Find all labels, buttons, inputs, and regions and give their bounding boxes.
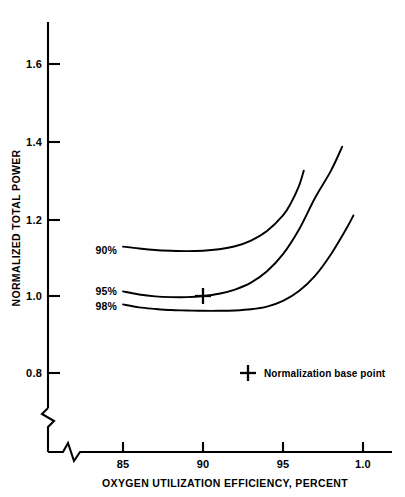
y-tick-marks [48, 64, 60, 373]
legend: Normalization base point [240, 365, 386, 381]
curve-label-90-percent: 90% [95, 244, 117, 256]
x-tick-labels: 85 90 95 1.0 [117, 458, 371, 470]
x-tick-label-85: 85 [117, 458, 130, 470]
curve-label-95-percent: 95% [95, 285, 117, 297]
x-axis-line [48, 443, 392, 461]
x-tick-marks [123, 442, 363, 452]
y-tick-labels: 1.6 1.4 1.2 1.0 0.8 [26, 58, 43, 379]
y-axis-title: NORMALIZED TOTAL POWER [10, 149, 22, 306]
curve-95-percent [123, 147, 342, 298]
legend-label-base-point: Normalization base point [264, 368, 386, 379]
y-tick-label-1.6: 1.6 [26, 58, 42, 70]
y-tick-label-1.2: 1.2 [26, 214, 42, 226]
chart-figure: 1.6 1.4 1.2 1.0 0.8 85 90 95 1.0 OXYGEN … [0, 0, 405, 497]
x-tick-label-100: 1.0 [355, 458, 371, 470]
x-tick-label-90: 90 [197, 458, 210, 470]
chart-canvas: 1.6 1.4 1.2 1.0 0.8 85 90 95 1.0 OXYGEN … [0, 0, 405, 497]
normalization-base-point-marker [195, 288, 211, 304]
x-tick-label-95: 95 [277, 458, 290, 470]
curve-90-percent [123, 171, 304, 252]
data-curves [123, 147, 353, 311]
curve-label-98-percent: 98% [95, 300, 117, 312]
y-tick-label-1.4: 1.4 [26, 136, 43, 148]
x-axis-title: OXYGEN UTILIZATION EFFICIENCY, PERCENT [102, 477, 348, 489]
y-axis-break-mark [42, 408, 54, 452]
y-tick-label-0.8: 0.8 [26, 367, 42, 379]
curve-labels: 90% 95% 98% [95, 244, 117, 312]
y-tick-label-1.0: 1.0 [26, 290, 42, 302]
